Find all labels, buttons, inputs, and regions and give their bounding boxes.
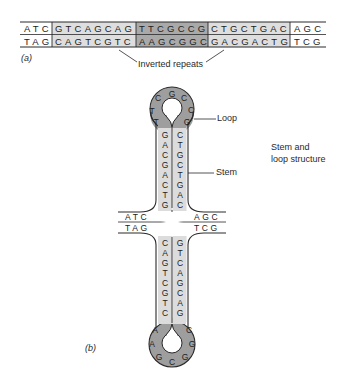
seg4-bottom: GACGACTG [211, 36, 291, 47]
structure-label-line1: Stem and [271, 142, 310, 152]
svg-text:T: T [162, 190, 167, 200]
svg-text:T: T [177, 248, 182, 258]
part-b-label: (b) [85, 343, 96, 353]
top-right-stem-bases: C T G C T G A C [177, 130, 184, 210]
svg-text:G: G [189, 339, 196, 349]
stem-label: Stem [216, 167, 237, 177]
svg-text:G: G [182, 352, 189, 362]
svg-text:C: C [177, 160, 183, 170]
seg4-top: CTGCTGAC [211, 23, 290, 34]
svg-text:T: T [177, 170, 182, 180]
inverted-repeats-label: Inverted repeats [138, 59, 203, 69]
bottom-right-stem-bases: G T C A G C A G [177, 238, 184, 318]
flank-top-right: AGC [194, 212, 220, 222]
flank-top-left: ATC [125, 212, 149, 222]
svg-text:G: G [162, 258, 169, 268]
seg2-top: GTCAGCAG [55, 23, 135, 34]
svg-text:C: C [177, 258, 183, 268]
svg-text:C: C [162, 180, 168, 190]
part-a-label: (a) [21, 53, 32, 63]
svg-text:T: T [162, 268, 167, 278]
svg-text:C: C [177, 288, 183, 298]
flank-bottom-right: TCG [194, 223, 220, 233]
svg-text:C: C [162, 278, 168, 288]
svg-text:G: G [177, 308, 184, 318]
seg1-top: ATC [24, 23, 52, 34]
svg-text:G: G [177, 238, 184, 248]
seg3-bottom: AAGCGGC [139, 36, 210, 47]
svg-text:C: C [177, 200, 183, 210]
seg1-bottom: TAG [24, 36, 52, 47]
svg-text:G: G [177, 180, 184, 190]
svg-text:G: G [162, 130, 169, 140]
seg2-bottom: CAGTCGTC [55, 36, 134, 47]
svg-text:G: G [177, 150, 184, 160]
svg-text:A: A [162, 248, 168, 258]
part-b-diagram: T T C G C C G G A C G A C T G C T G C T … [0, 75, 344, 375]
svg-text:T: T [162, 298, 167, 308]
svg-text:A: A [162, 140, 168, 150]
svg-text:C: C [186, 325, 192, 335]
svg-text:C: C [188, 105, 194, 115]
svg-text:T: T [153, 117, 158, 127]
bottom-left-stem-bases: C A G T C G T C [162, 238, 169, 318]
seg5-top: AGC [294, 23, 324, 34]
svg-text:A: A [149, 339, 155, 349]
svg-text:C: C [162, 238, 168, 248]
svg-text:A: A [177, 190, 183, 200]
loop-label: Loop [217, 113, 237, 123]
flank-bottom-left: TAG [125, 223, 150, 233]
pointer-right [206, 50, 224, 62]
structure-label-line2: loop structure [271, 154, 326, 164]
svg-text:G: G [162, 288, 169, 298]
svg-text:G: G [177, 278, 184, 288]
svg-text:A: A [177, 298, 183, 308]
svg-text:T: T [149, 106, 154, 116]
svg-text:C: C [155, 93, 161, 103]
svg-text:C: C [162, 150, 168, 160]
svg-text:A: A [177, 268, 183, 278]
svg-text:A: A [162, 170, 168, 180]
svg-text:C: C [169, 357, 175, 367]
top-left-stem-bases: G A C G A C T G [162, 130, 169, 210]
seg3-top: TTCGCCG [139, 23, 208, 34]
stem-loop-structure: T T C G C C G G A C G A C T G C T G C T … [0, 75, 344, 375]
svg-text:G: G [169, 89, 176, 99]
svg-text:T: T [177, 140, 182, 150]
part-a-diagram: ATC TAG GTCAGCAG CAGTCGTC TTCGCCG AAGCGG… [0, 0, 344, 75]
svg-text:C: C [177, 130, 183, 140]
svg-text:G: G [156, 352, 163, 362]
svg-text:C: C [181, 93, 187, 103]
pointer-left [119, 50, 137, 62]
svg-text:C: C [162, 308, 168, 318]
seg5-bottom: TCG [294, 36, 324, 47]
svg-text:G: G [162, 160, 169, 170]
svg-text:A: A [152, 325, 158, 335]
svg-text:G: G [162, 200, 169, 210]
svg-text:G: G [184, 117, 191, 127]
